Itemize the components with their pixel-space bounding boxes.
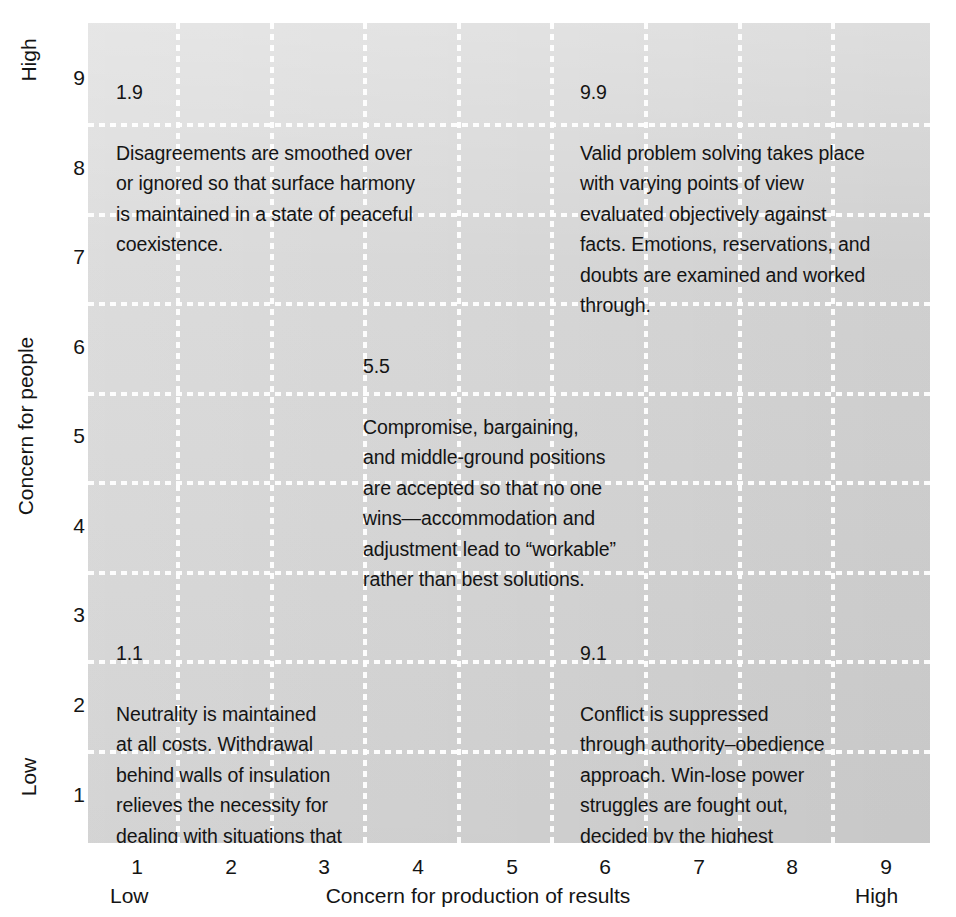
y-tick-3: 3 [55,603,85,627]
annotation-text-1-1: Neutrality is maintained at all costs. W… [116,699,516,844]
annotation-9-9: 9.9 Valid problem solving takes place wi… [580,46,930,351]
x-tick-5: 5 [492,855,532,879]
x-tick-4: 4 [398,855,438,879]
y-tick-2: 2 [55,693,85,717]
x-tick-3: 3 [304,855,344,879]
annotation-code-1-1: 1.1 [116,638,516,669]
annotation-code-5-5: 5.5 [363,351,763,382]
managerial-grid-figure: 1.9 Disagreements are smoothed over or i… [0,0,956,917]
x-tick-8: 8 [772,855,812,879]
y-tick-1: 1 [55,783,85,807]
annotation-5-5: 5.5 Compromise, bargaining, and middle-g… [363,320,763,625]
plot-area: 1.9 Disagreements are smoothed over or i… [88,23,930,843]
annotation-1-9: 1.9 Disagreements are smoothed over or i… [116,46,576,290]
y-tick-5: 5 [55,424,85,448]
annotation-code-1-9: 1.9 [116,77,576,108]
annotation-text-9-9: Valid problem solving takes place with v… [580,138,930,321]
x-tick-2: 2 [211,855,251,879]
y-axis-low-label: Low [17,747,41,807]
x-axis-title: Concern for production of results [228,884,728,908]
y-tick-6: 6 [55,335,85,359]
annotation-text-9-1: Conflict is suppressed through authority… [580,699,930,844]
annotation-9-1: 9.1 Conflict is suppressed through autho… [580,607,930,843]
annotation-text-1-9: Disagreements are smoothed over or ignor… [116,138,576,260]
x-axis-low-label: Low [110,884,149,908]
y-tick-7: 7 [55,245,85,269]
x-axis-high-label: High [855,884,898,908]
x-tick-1: 1 [117,855,157,879]
annotation-1-1: 1.1 Neutrality is maintained at all cost… [116,607,516,843]
annotation-text-5-5: Compromise, bargaining, and middle-groun… [363,412,763,595]
x-tick-7: 7 [679,855,719,879]
y-axis-title: Concern for people [14,296,38,556]
annotation-code-9-1: 9.1 [580,638,930,669]
y-tick-4: 4 [55,514,85,538]
y-axis-high-label: High [17,30,41,90]
x-tick-9: 9 [866,855,906,879]
annotation-code-9-9: 9.9 [580,77,930,108]
y-tick-9: 9 [55,66,85,90]
y-tick-8: 8 [55,156,85,180]
x-tick-6: 6 [585,855,625,879]
